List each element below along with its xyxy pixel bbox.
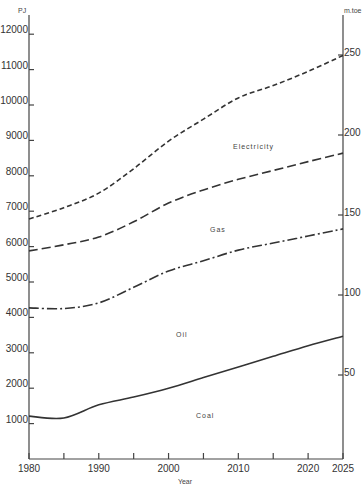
x-axis-title: Year — [178, 478, 193, 485]
electricity-label: Electricity — [233, 143, 274, 151]
left-tick-label: 9000 — [6, 130, 29, 141]
right-tick-label: 250 — [344, 47, 361, 58]
oil-line — [29, 229, 343, 309]
left-tick-label: 7000 — [6, 201, 29, 212]
x-tick-label: 2000 — [157, 463, 180, 474]
left-tick-label: 11000 — [1, 60, 29, 71]
gas-line — [29, 153, 343, 251]
left-tick-label: 1000 — [6, 414, 29, 425]
left-tick-label: 12000 — [0, 24, 28, 35]
x-ticks: 198019902000201020202025 — [18, 453, 355, 474]
left-tick-label: 3000 — [6, 343, 29, 354]
x-tick-label: 2020 — [297, 463, 320, 474]
right-tick-label: 100 — [344, 287, 361, 298]
right-unit-label: m.toe — [344, 7, 362, 14]
coal-label: Coal — [196, 412, 214, 419]
energy-demand-chart: PJ m.toe 1000200030004000500060007000800… — [0, 0, 363, 486]
left-tick-label: 8000 — [6, 166, 29, 177]
right-tick-label: 150 — [344, 207, 361, 218]
left-tick-label: 5000 — [6, 272, 29, 283]
right-tick-label: 200 — [344, 127, 361, 138]
x-tick-label: 1990 — [88, 463, 111, 474]
right-tick-label: 50 — [344, 367, 356, 378]
left-unit-label: PJ — [18, 7, 26, 14]
gas-label: Gas — [210, 226, 226, 233]
coal-line — [29, 336, 343, 418]
oil-label: Oil — [176, 331, 188, 338]
left-tick-label: 4000 — [6, 307, 29, 318]
left-tick-label: 10000 — [0, 95, 28, 106]
electricity-line — [29, 55, 343, 219]
right-y-ticks: 50100150200250 — [338, 47, 361, 378]
x-tick-label: 2010 — [227, 463, 250, 474]
x-tick-label: 1980 — [18, 463, 41, 474]
left-tick-label: 2000 — [6, 378, 29, 389]
x-tick-label: 2025 — [332, 463, 355, 474]
left-tick-label: 6000 — [6, 237, 29, 248]
